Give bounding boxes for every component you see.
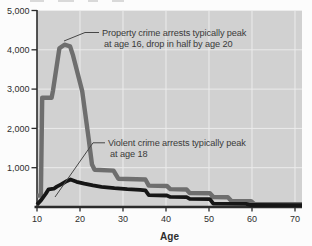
x-tick-label: 30 xyxy=(118,214,128,224)
x-tick-label: 20 xyxy=(75,214,85,224)
y-tick-label: 5,000 xyxy=(7,6,30,16)
violent-crime-annotation-text: at age 18 xyxy=(110,149,147,159)
x-tick-label: 10 xyxy=(32,214,42,224)
x-tick-label: 50 xyxy=(204,214,214,224)
cropped-title-fragment xyxy=(30,0,44,2)
y-tick-label: 1,000 xyxy=(7,163,30,173)
x-tick-label: 70 xyxy=(290,214,300,224)
property-crime-annotation-text: at age 16, drop in half by age 20 xyxy=(104,39,233,49)
y-tick-label: 2,000 xyxy=(7,124,30,134)
cropped-title-fragment xyxy=(88,0,98,2)
x-axis-title: Age xyxy=(160,231,179,242)
axis-label: Age xyxy=(160,231,179,242)
cropped-title-remnant xyxy=(30,0,124,2)
cropped-title-fragment xyxy=(112,0,124,2)
x-tick-label: 40 xyxy=(161,214,171,224)
age-arrest-rate-figure: 1,0002,0003,0004,0005,00010203040506070 … xyxy=(0,0,312,246)
property-crime-annotation-text: Property crime arrests typically peak xyxy=(102,28,247,38)
cropped-title-fragment xyxy=(58,0,74,2)
chart-canvas: 1,0002,0003,0004,0005,00010203040506070 … xyxy=(0,0,312,246)
y-tick-label: 3,000 xyxy=(7,84,30,94)
y-tick-label: 4,000 xyxy=(7,45,30,55)
x-tick-label: 60 xyxy=(247,214,257,224)
violent-crime-annotation-text: Violent crime arrests typically peak xyxy=(108,138,246,148)
